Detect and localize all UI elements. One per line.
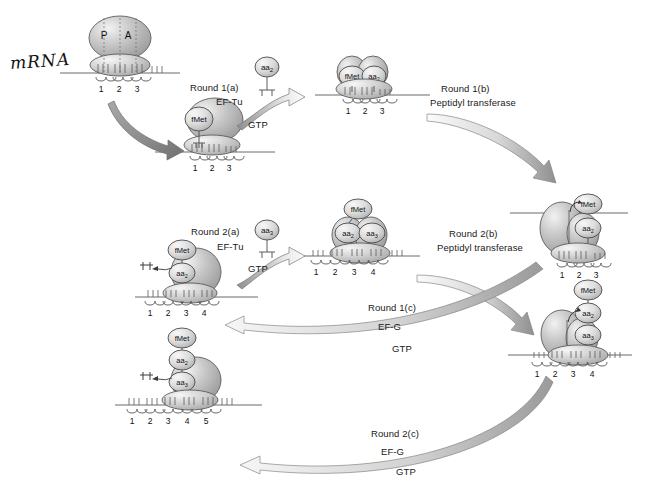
step-label-round-1a-gtp: GTP — [248, 119, 268, 131]
codon-number: 4 — [199, 308, 209, 318]
svg-text:fMet: fMet — [581, 200, 597, 209]
arrow-round-1b — [427, 114, 556, 183]
svg-text:fMet: fMet — [175, 334, 191, 343]
a-site-label: A — [122, 30, 134, 41]
diagram-canvas: fMet aa2 fMet aa2 — [0, 0, 646, 493]
codon-number: 4 — [587, 369, 597, 379]
released-trna-round1 — [140, 262, 172, 271]
codon-number: 1 — [532, 369, 542, 379]
codon-number: 3 — [163, 416, 173, 426]
svg-text:fMet: fMet — [351, 205, 367, 214]
step-label-round-1b-enzyme: Peptidyl transferase — [430, 97, 516, 109]
step-label-round-2b-enzyme: Peptidyl transferase — [437, 242, 523, 254]
ribosome-translocated-round1: fMet aa2 — [140, 240, 221, 305]
step-label-round-1c-factor: EF-G — [378, 321, 401, 333]
translation-elongation-diagram: fMet aa2 fMet aa2 — [0, 0, 646, 493]
step-label-round-1c-gtp: GTP — [392, 343, 412, 355]
step-label-round-2a: Round 2(a) — [191, 226, 240, 238]
codon-number: 2 — [360, 106, 370, 116]
step-label-round-1c: Round 1(c) — [368, 302, 416, 314]
step-label-round-1b: Round 1(b) — [441, 83, 490, 95]
arrow-initiation-to-fmet — [108, 101, 184, 160]
codon-number: 1 — [557, 270, 567, 280]
trna-aa2-free: aa2 — [255, 57, 279, 96]
codon-number: 2 — [550, 369, 560, 379]
codon-number: 3 — [591, 270, 601, 280]
trna-aa3-free: aa3 — [255, 220, 279, 258]
codon-number: 2 — [145, 416, 155, 426]
codon-number: 1 — [96, 84, 106, 94]
codon-number: 2 — [330, 267, 340, 277]
codon-number: 1 — [343, 106, 353, 116]
codon-number: 3 — [181, 308, 191, 318]
arrow-round-2c — [240, 376, 553, 474]
step-label-round-1a-factor: EF-Tu — [216, 96, 243, 108]
codon-number: 2 — [207, 163, 217, 173]
ribosome-tripeptide-formed: fMet aa2 aa3 — [532, 280, 620, 366]
codon-number: 3 — [224, 163, 234, 173]
codon-number: 1 — [127, 416, 137, 426]
codon-number: 2 — [574, 270, 584, 280]
codon-number: 3 — [349, 267, 359, 277]
codon-number: 4 — [182, 416, 192, 426]
svg-text:fMet: fMet — [581, 286, 597, 295]
codon-number: 1 — [145, 308, 155, 318]
ribosome-fmet-aa2-aa3-bound: fMet aa2 aa3 — [311, 199, 402, 264]
step-label-round-2c: Round 2(c) — [371, 428, 419, 440]
ribosome-translocated-round2: fMet aa2 aa3 — [127, 328, 232, 413]
codon-number: 4 — [368, 267, 378, 277]
codon-number: 2 — [163, 308, 173, 318]
p-site-label: P — [98, 30, 110, 41]
ribosome-dipeptide-formed: fMet aa2 — [540, 194, 611, 267]
step-label-round-2a-gtp: GTP — [248, 263, 268, 275]
step-label-round-2a-factor: EF-Tu — [217, 241, 244, 253]
codon-brackets — [96, 77, 151, 81]
codon-number: 1 — [190, 163, 200, 173]
codon-number: 3 — [377, 106, 387, 116]
svg-text:fMet: fMet — [191, 115, 207, 124]
ribosome-fmet-aa2-bound: fMet aa2 — [336, 56, 397, 103]
ribosome-initiation-complex — [89, 16, 162, 81]
step-label-round-2b: Round 2(b) — [449, 228, 498, 240]
codon-number: 1 — [311, 267, 321, 277]
codon-number: 2 — [114, 84, 124, 94]
svg-text:fMet: fMet — [175, 246, 191, 255]
step-label-round-2c-gtp: GTP — [396, 466, 416, 478]
codon-number: 3 — [132, 84, 142, 94]
codon-number: 5 — [201, 416, 211, 426]
step-label-round-1a: Round 1(a) — [190, 82, 239, 94]
codon-number: 3 — [568, 369, 578, 379]
released-trna-round2 — [140, 372, 172, 381]
step-label-round-2c-factor: EF-G — [381, 446, 404, 458]
mrna-label: mRNA — [9, 49, 70, 73]
